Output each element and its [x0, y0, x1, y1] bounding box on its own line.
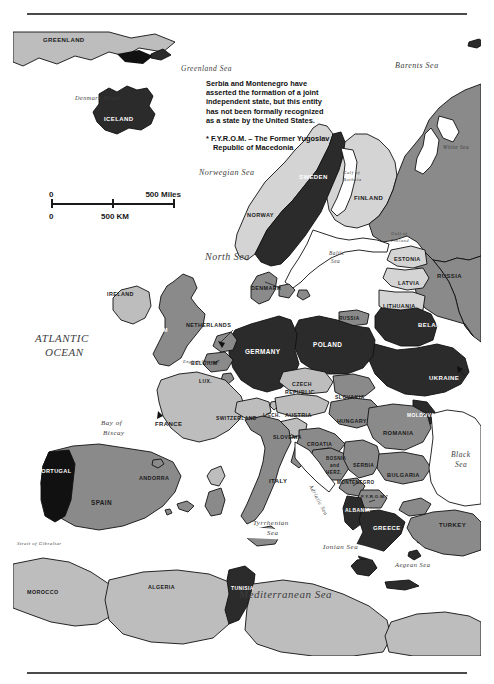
country-label-czech-republic: CZECH [292, 381, 312, 387]
country-label-andorra: ANDORRA [139, 475, 169, 481]
country-label-austria: AUSTRIA [285, 412, 312, 418]
note-line-5: as a state by the United States. [206, 116, 354, 125]
map-note: Serbia and Montenegro have asserted the … [206, 79, 354, 152]
country-label-hungary: HUNGARY [337, 418, 367, 424]
country-label-tunisia: TUNISIA [231, 585, 254, 591]
country-label-norway: NORWAY [247, 212, 274, 218]
country-label-russia: RUSSIA [437, 273, 462, 279]
sea-label-greenland-sea: Greenland Sea [181, 64, 232, 73]
country-label-fyrom: F.Y.R.O.M.* [361, 494, 388, 499]
sea-label-black-sea-line2: Sea [455, 460, 467, 469]
country-label-serbia: SERBIA [353, 462, 374, 468]
sea-label-aegean-sea: Aegean Sea [394, 561, 431, 568]
note-line-4: has not been formally recognized [206, 107, 354, 116]
country-label-latvia: LATVIA [398, 280, 419, 286]
europe-map: .o { stroke:#111111; stroke-width:0.9; s… [13, 24, 481, 656]
country-label-portugal: PORTUGAL [37, 468, 72, 474]
country-label-bosnia-line3: HERZ. [326, 470, 342, 475]
country-label-united-kingdom-line2: KINGDOM [139, 327, 168, 333]
country-label-denmark: DENMARK [251, 285, 281, 291]
header-divider-rule [27, 13, 467, 15]
country-label-romania: ROMANIA [383, 430, 414, 436]
country-label-morocco: MOROCCO [27, 589, 59, 595]
scale-zero-miles: 0 [49, 190, 53, 199]
scale-miles-label: 500 Miles [145, 190, 181, 199]
country-label-bosnia-line2: and [330, 463, 339, 468]
country-label-netherlands: NETHERLANDS [186, 322, 231, 328]
scale-zero-km: 0 [49, 212, 53, 221]
country-label-liechtenstein: LIECH. [263, 413, 280, 418]
sea-label-ionian-sea: Ionian Sea [322, 543, 358, 551]
sea-label-denmark-strait: Denmark Strait [74, 94, 120, 101]
country-label-france: FRANCE [155, 421, 182, 427]
country-label-greenland: GREENLAND [43, 37, 85, 43]
country-label-belgium: BELGIUM [191, 360, 218, 366]
country-label-germany: GERMANY [245, 348, 281, 355]
country-label-russia-kaliningrad: RUSSIA [339, 316, 360, 321]
fyrom-footnote: * F.Y.R.O.M. – The Former Yugoslav Repub… [206, 134, 354, 152]
country-label-spain: SPAIN [91, 499, 112, 506]
country-bulgaria [377, 452, 431, 484]
sea-label-finland-line2: Finland [390, 238, 409, 243]
sea-label-biscay-line2: Biscay [103, 429, 125, 437]
sea-label-north-sea: North Sea [204, 251, 250, 262]
scale-bar: 0 500 Miles 0 500 KM [49, 190, 181, 224]
note-line-3: independent state, but this entity [206, 97, 354, 106]
note-line-1: Serbia and Montenegro have [206, 79, 354, 88]
sea-label-tyrrhenian-sea: Tyrrhenian [253, 519, 289, 527]
country-label-iceland: ICELAND [104, 116, 134, 122]
country-label-ukraine: UKRAINE [429, 375, 459, 381]
map-page: .o { stroke:#111111; stroke-width:0.9; s… [0, 0, 494, 684]
country-label-croatia: CROATIA [307, 441, 332, 447]
sea-label-norwegian-sea: Norwegian Sea [198, 168, 255, 177]
sea-label-tyrrhenian-line2: Sea [267, 529, 279, 537]
country-label-turkey: TURKEY [439, 522, 466, 528]
sea-label-barents-sea: Barents Sea [395, 61, 439, 70]
country-label-lithuania: LITHUANIA [383, 303, 416, 309]
scale-km-label: 500 KM [101, 212, 129, 221]
country-label-united-kingdom: UNITED [141, 319, 163, 325]
country-label-estonia: ESTONIA [394, 256, 421, 262]
country-label-bosnia: BOSNIA [326, 456, 347, 461]
country-label-luxembourg: LUX. [199, 378, 212, 384]
scale-tick-start [51, 199, 53, 208]
fyrom-line-2: Republic of Macedonia [206, 143, 354, 152]
country-label-switzerland: SWITZERLAND [216, 415, 257, 421]
country-label-belarus: BELARUS [418, 322, 450, 328]
country-label-moldova: MOLDOVA [407, 412, 435, 418]
footer-divider-rule [27, 672, 467, 674]
note-line-2: asserted the formation of a joint [206, 88, 354, 97]
sea-label-gulf-of-bothnia: Gulf of [343, 170, 360, 175]
country-label-greece: GREECE [373, 525, 401, 531]
country-label-czech-republic-line2: REPUBLIC [285, 389, 315, 395]
scale-tick-mid [112, 199, 114, 208]
country-label-poland: POLAND [313, 341, 342, 348]
sea-label-ocean: OCEAN [45, 346, 84, 358]
sea-label-black-sea: Black [451, 450, 471, 459]
country-label-algeria: ALGERIA [148, 584, 175, 590]
country-algeria [105, 570, 235, 644]
country-label-italy: ITALY [269, 478, 287, 484]
sea-label-white-sea: White Sea [443, 144, 469, 150]
sea-label-strait-of-gibraltar: Strait of Gibraltar [17, 541, 62, 546]
country-label-ireland: IRELAND [107, 291, 134, 297]
sea-label-baltic-sea-line2: Sea [331, 258, 340, 264]
sea-label-bay-of-biscay: Bay of [101, 419, 123, 427]
sea-label-baltic-sea: Baltic [329, 250, 345, 256]
country-label-sweden: SWEDEN [299, 174, 328, 180]
country-label-albania: ALBANIA [345, 507, 370, 513]
country-label-slovenia: SLOVENIA [273, 434, 302, 440]
sea-label-atlantic: ATLANTIC [34, 332, 89, 344]
country-label-slovakia: SLOVAKIA [335, 394, 365, 400]
country-label-finland: FINLAND [354, 195, 383, 201]
fyrom-line-1: * F.Y.R.O.M. – The Former Yugoslav [206, 134, 329, 143]
sea-label-bothnia-line2: Bothnia [343, 177, 362, 182]
country-label-bulgaria: BULGARIA [387, 472, 420, 478]
sea-label-gulf-of-finland: Gulf of [391, 231, 408, 236]
scale-tick-end [173, 199, 175, 208]
